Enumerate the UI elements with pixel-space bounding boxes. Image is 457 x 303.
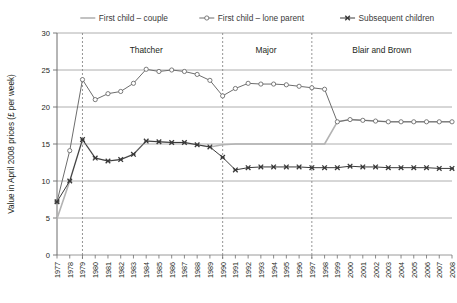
x-tick-label: 2000 [346,262,355,278]
y-tick-label: 5 [46,214,50,223]
series-marker [411,165,416,170]
x-tick-label: 1982 [117,262,126,278]
series-marker [157,69,161,73]
x-tick-label: 2007 [435,262,444,278]
series-marker [284,165,289,170]
series-marker [322,87,326,91]
series-line-1 [57,69,452,201]
y-tick-label: 20 [42,103,50,112]
x-tick-label: 2006 [423,262,432,278]
series-marker [271,165,276,170]
y-tick-label: 30 [42,29,50,38]
x-tick-label: 1991 [231,262,240,278]
series-marker [424,120,428,124]
series-marker [386,120,390,124]
series-marker [348,164,353,169]
series-line-0 [57,120,452,219]
series-marker [246,81,250,85]
x-tick-label: 1992 [244,262,253,278]
y-tick-label: 0 [46,251,50,260]
x-tick-label: 1994 [270,262,279,278]
series-marker [297,165,302,170]
series-marker [272,82,276,86]
series-marker [335,120,339,124]
x-tick-label: 1985 [155,262,164,278]
series-marker [144,67,148,71]
series-marker [208,145,213,150]
series-marker [386,165,391,170]
series-marker [68,149,72,153]
series-marker [361,118,365,122]
x-tick-label: 1978 [66,262,75,278]
series-marker [118,157,123,162]
x-tick-label: 1998 [321,262,330,278]
x-tick-label: 2001 [359,262,368,278]
series-marker [322,165,327,170]
series-marker [424,165,429,170]
series-marker [399,165,404,170]
x-tick-label: 1986 [168,262,177,278]
y-axis-title: Value in April 2008 prices (£ per week) [7,74,16,214]
series-marker [450,166,455,171]
x-tick-label: 2004 [397,262,406,278]
series-marker [131,81,135,85]
x-tick-label: 1977 [53,262,62,278]
x-tick-label: 1993 [257,262,266,278]
x-tick-label: 1984 [142,262,151,278]
x-tick-label: 1996 [295,262,304,278]
era-label: Blair and Brown [352,45,411,55]
series-marker [119,89,123,93]
series-marker [412,120,416,124]
series-marker [195,142,200,147]
y-tick-label: 10 [42,177,50,186]
y-tick-label: 25 [42,66,50,75]
era-label: Major [255,45,276,55]
series-marker [233,86,237,90]
x-tick-label: 1981 [104,262,113,278]
series-marker [144,139,149,144]
series-marker [437,166,442,171]
legend-item-2: Subsequent children [340,13,435,23]
series-marker [246,165,251,170]
series-marker [233,168,238,173]
legend-circle-icon [205,16,209,20]
series-marker [259,165,264,170]
x-tick-label: 1987 [180,262,189,278]
chart-container: 051015202530Value in April 2008 prices (… [0,0,457,303]
line-chart: 051015202530Value in April 2008 prices (… [0,0,457,303]
x-tick-label: 1983 [129,262,138,278]
x-tick-label: 1999 [333,262,342,278]
series-marker [335,165,340,170]
x-tick-label: 1979 [78,262,87,278]
series-marker [106,92,110,96]
series-marker [399,120,403,124]
x-tick-label: 2008 [448,262,457,278]
x-tick-label: 2005 [410,262,419,278]
x-tick-label: 1980 [91,262,100,278]
legend-label: First child – lone parent [218,13,305,23]
x-tick-label: 1997 [308,262,317,278]
series-line-2 [57,140,452,202]
era-label: Thatcher [130,45,163,55]
series-marker [297,84,301,88]
series-marker [80,78,84,82]
legend-item-1: First child – lone parent [199,13,304,23]
x-tick-label: 2003 [384,262,393,278]
series-marker [208,78,212,82]
series-marker [259,82,263,86]
series-marker [182,69,186,73]
series-marker [310,86,314,90]
y-tick-label: 15 [42,140,50,149]
series-marker [106,159,111,164]
series-marker [93,98,97,102]
series-marker [348,117,352,121]
series-marker [373,165,378,170]
legend-item-0: First child – couple [80,13,168,23]
series-marker [284,83,288,87]
x-tick-label: 1990 [219,262,228,278]
x-tick-label: 1988 [193,262,202,278]
series-marker [93,156,98,161]
series-marker [373,119,377,123]
series-marker [195,72,199,76]
series-marker [170,68,174,72]
